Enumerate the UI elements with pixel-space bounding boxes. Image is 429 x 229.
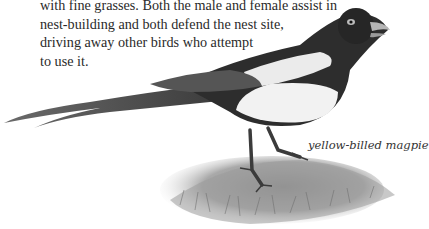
passage-line: to use it. — [40, 52, 340, 71]
passage-line: driving away other birds who attempt — [40, 33, 340, 52]
passage-line: nest-building and both defend the nest s… — [40, 15, 340, 34]
grass-mound — [160, 156, 395, 224]
passage-line: with fine grasses. Both the male and fem… — [40, 0, 340, 15]
figure-caption: yellow-billed magpie — [308, 138, 429, 152]
body-passage: with fine grasses. Both the male and fem… — [40, 0, 340, 70]
